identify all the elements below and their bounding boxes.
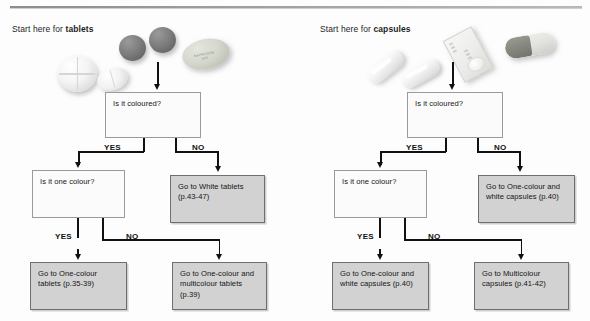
start-label-tablets: Start here for tablets (12, 24, 94, 34)
decision-box-capsules-coloured[interactable]: Is it coloured? (407, 92, 503, 138)
artwork-dark-round-tablet-2 (149, 27, 176, 53)
entry-line-capsules (452, 62, 454, 86)
branch1-yes-stub-tablets (143, 138, 145, 152)
branch1-yes-arrow-capsules (377, 162, 383, 168)
branch2-yes-drop-tablets (77, 218, 79, 238)
branch2-no-horizontal-tablets (102, 239, 220, 241)
blister-text-top: ||||| ||||| ||||| (449, 42, 458, 54)
outcome-box-one-colour-white-capsules-top[interactable]: Go to One-colour and white capsules (p.4… (478, 175, 575, 223)
outcome-box-one-colour-white-capsules-top-label: Go to One-colour and white capsules (p.4… (486, 182, 560, 201)
entry-line-tablets (157, 62, 159, 86)
entry-arrow-capsules (449, 84, 455, 90)
artwork-caplet-tablet: NAPROXEN 500 (180, 35, 233, 74)
branch1-yes-arrow-tablets (75, 162, 81, 168)
decision-box-tablets-one-colour[interactable]: Is it one colour? (32, 170, 125, 218)
artwork-white-oval-tablet (95, 64, 131, 94)
branch1-no-arrow-tablets (215, 166, 221, 172)
outcome-box-multicolour-capsules[interactable]: Go to Multicolour capsules (p.41-42) (474, 262, 569, 310)
branch2-yes-arrow-capsules (377, 254, 383, 260)
two-tone-capsule-dark-half (504, 35, 533, 60)
branch1-no-arrow-capsules (517, 166, 523, 172)
branch1-no-stub-tablets (175, 138, 177, 152)
outcome-box-multicolour-tablets[interactable]: Go to One-colour and multicolour tablets… (172, 262, 267, 310)
branch2-no-stub-capsules (404, 218, 406, 240)
branch2-no-label-tablets: NO (126, 232, 139, 241)
start-label-capsules-prefix: Start here for (320, 24, 373, 34)
flowchart-page: Start here for tablets NAPROXEN 500 Is i… (0, 0, 590, 321)
branch2-no-arrow-tablets (216, 254, 222, 260)
outcome-box-multicolour-tablets-label: Go to One-colour and multicolour tablets… (180, 269, 254, 299)
outcome-box-one-colour-white-capsules-bottom[interactable]: Go to One-colour and white capsules (p.4… (332, 262, 429, 310)
outcome-box-white-tablets-label: Go to White tablets (p.43-47) (178, 182, 244, 201)
entry-arrow-tablets (154, 84, 160, 90)
decision-box-capsules-one-colour[interactable]: Is it one colour? (334, 170, 427, 218)
start-label-tablets-strong: tablets (65, 24, 93, 34)
decision-box-capsules-coloured-label: Is it coloured? (415, 99, 463, 108)
branch1-no-label-tablets: NO (192, 143, 205, 152)
start-label-tablets-prefix: Start here for (12, 24, 65, 34)
branch2-yes-arrow-tablets (75, 254, 81, 260)
artwork-white-capsule-2 (398, 56, 442, 90)
branch1-yes-stub-capsules (445, 138, 447, 152)
branch1-yes-label-tablets: YES (104, 143, 121, 152)
branch2-no-horizontal-capsules (404, 239, 522, 241)
decision-box-tablets-coloured-label: Is it coloured? (113, 99, 161, 108)
outcome-box-one-colour-white-capsules-bottom-label: Go to One-colour and white capsules (p.4… (340, 269, 414, 288)
decision-box-tablets-one-colour-label: Is it one colour? (40, 177, 94, 186)
branch2-no-stub-tablets (102, 218, 104, 240)
artwork-dark-round-tablet-1 (119, 35, 146, 61)
branch2-yes-drop-capsules (379, 218, 381, 238)
outcome-box-multicolour-capsules-label: Go to Multicolour capsules (p.41-42) (482, 269, 546, 288)
outcome-box-one-colour-tablets-label: Go to One-colour tablets (p.35-39) (38, 269, 97, 288)
decision-box-tablets-coloured[interactable]: Is it coloured? (105, 92, 201, 138)
artwork-two-tone-capsule (504, 31, 557, 60)
branch1-no-stub-capsules (477, 138, 479, 152)
branch1-no-label-capsules: NO (494, 143, 507, 152)
branch2-yes-label-capsules: YES (357, 232, 374, 241)
start-label-capsules-strong: capsules (373, 24, 410, 34)
artwork-blister-pack: ||||| ||||| ||||| ||||| ||||| ||||| (443, 26, 493, 83)
outcome-box-white-tablets[interactable]: Go to White tablets (p.43-47) (170, 175, 265, 223)
header-rule-secondary (10, 8, 582, 9)
branch1-yes-label-capsules: YES (406, 143, 423, 152)
branch2-no-arrow-capsules (518, 254, 524, 260)
decision-box-capsules-one-colour-label: Is it one colour? (342, 177, 396, 186)
start-label-capsules: Start here for capsules (320, 24, 411, 34)
outcome-box-one-colour-tablets[interactable]: Go to One-colour tablets (p.35-39) (30, 262, 127, 310)
branch2-no-label-capsules: NO (428, 232, 441, 241)
caplet-emboss-text: NAPROXEN 500 (194, 50, 216, 62)
artwork-white-round-tablet (57, 55, 97, 92)
branch2-yes-label-tablets: YES (55, 232, 72, 241)
